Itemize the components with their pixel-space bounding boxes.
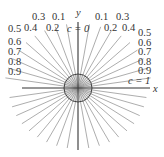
label-right-0.9: 0.9 [138, 65, 151, 76]
origin-circle [64, 74, 92, 102]
label-right-0.3: 0.3 [116, 11, 129, 22]
c0-label: c = 0 [67, 23, 90, 34]
label-right-0.4: 0.4 [122, 22, 136, 33]
label-right-0.1: 0.1 [95, 11, 108, 22]
x-axis-label: x [152, 83, 158, 94]
label-right-0.2: 0.2 [104, 22, 117, 33]
label-left-0.4: 0.4 [24, 22, 38, 33]
label-left-0.9: 0.9 [8, 66, 21, 77]
c1-label: c = 1 [128, 75, 150, 86]
label-left-0.3: 0.3 [32, 11, 45, 22]
label-left-0.5: 0.5 [8, 23, 21, 34]
label-left-0.1: 0.1 [52, 11, 65, 22]
label-left-0.2: 0.2 [46, 22, 59, 33]
y-axis-label: y [75, 7, 81, 18]
line-family-diagram: y x c = 0 c = 1 0.3 0.1 0.5 0.4 0.2 0.6 … [0, 0, 164, 157]
